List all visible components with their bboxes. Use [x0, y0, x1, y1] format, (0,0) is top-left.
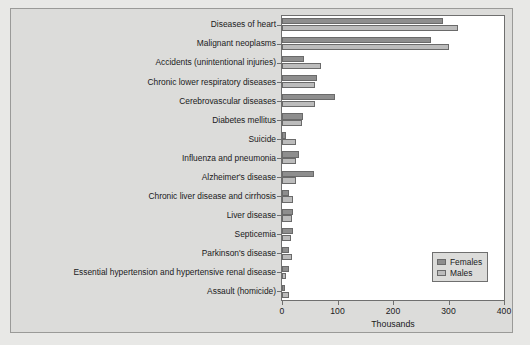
bar-group: [282, 15, 504, 34]
x-tick-mark: [338, 301, 339, 305]
category-tick-row: Liver disease: [17, 206, 281, 225]
bar-group: [282, 148, 504, 167]
bar-females: [282, 266, 289, 272]
bar-males: [282, 158, 296, 164]
category-tick-row: Parkinson's disease: [17, 244, 281, 263]
x-tick-label: 400: [497, 306, 511, 316]
category-label: Parkinson's disease: [202, 249, 281, 257]
category-label: Septicemia: [235, 230, 281, 238]
bar-males: [282, 44, 449, 50]
category-tick-row: Cerebrovascular diseases: [17, 91, 281, 110]
category-tick-row: Assault (homicide): [17, 282, 281, 301]
bar-females: [282, 171, 314, 177]
legend-label: Females: [450, 257, 482, 267]
category-tick-row: Suicide: [17, 129, 281, 148]
bar-males: [282, 215, 292, 221]
category-label: Cerebrovascular diseases: [179, 97, 281, 105]
bar-females: [282, 247, 289, 253]
bar-males: [282, 101, 315, 107]
category-label: Essential hypertension and hypertensive …: [73, 268, 281, 276]
x-tick-mark: [449, 301, 450, 305]
category-label: Chronic liver disease and cirrhosis: [148, 192, 281, 200]
category-axis: Diseases of heartMalignant neoplasmsAcci…: [17, 15, 281, 301]
bar-females: [282, 285, 285, 291]
bar-females: [282, 75, 317, 81]
bar-females: [282, 113, 303, 119]
category-tick-row: Accidents (unintentional injuries): [17, 53, 281, 72]
bar-males: [282, 196, 293, 202]
category-label: Diabetes mellitus: [212, 116, 281, 124]
bar-females: [282, 190, 289, 196]
legend-item: Females: [437, 256, 482, 267]
bar-group: [282, 206, 504, 225]
bar-females: [282, 94, 335, 100]
bar-females: [282, 151, 299, 157]
x-axis-label: Thousands: [282, 319, 504, 329]
category-tick-row: Chronic lower respiratory diseases: [17, 72, 281, 91]
category-label: Accidents (unintentional injuries): [155, 58, 281, 66]
bar-males: [282, 25, 458, 31]
bar-group: [282, 110, 504, 129]
bar-males: [282, 235, 291, 241]
legend-swatch-icon: [437, 259, 446, 265]
x-tick-mark: [282, 301, 283, 305]
category-tick-row: Influenza and pneumonia: [17, 148, 281, 167]
chart-legend: FemalesMales: [432, 252, 488, 282]
x-tick-mark: [504, 301, 505, 305]
category-tick-row: Essential hypertension and hypertensive …: [17, 263, 281, 282]
category-label: Diseases of heart: [211, 20, 281, 28]
bar-males: [282, 120, 302, 126]
bar-group: [282, 34, 504, 53]
legend-label: Males: [450, 268, 472, 278]
bar-males: [282, 139, 296, 145]
legend-item: Males: [437, 267, 482, 278]
chart-figure: Diseases of heartMalignant neoplasmsAcci…: [10, 8, 513, 333]
x-tick-label: 300: [441, 306, 455, 316]
category-tick-row: Chronic liver disease and cirrhosis: [17, 187, 281, 206]
x-tick-label: 200: [386, 306, 400, 316]
bar-females: [282, 18, 443, 24]
bar-males: [282, 273, 286, 279]
bar-females: [282, 132, 286, 138]
category-label: Alzheimer's disease: [202, 173, 281, 181]
x-tick-mark: [393, 301, 394, 305]
bar-males: [282, 82, 315, 88]
category-label: Assault (homicide): [207, 287, 281, 295]
x-axis: Thousands 0100200300400: [282, 301, 504, 335]
bar-males: [282, 177, 296, 183]
bar-group: [282, 282, 504, 301]
legend-swatch-icon: [437, 270, 446, 276]
bar-females: [282, 37, 431, 43]
bar-males: [282, 254, 292, 260]
bar-females: [282, 209, 293, 215]
category-tick-row: Diseases of heart: [17, 15, 281, 34]
category-label: Malignant neoplasms: [197, 39, 281, 47]
category-tick-row: Alzheimer's disease: [17, 168, 281, 187]
bar-group: [282, 187, 504, 206]
bar-group: [282, 225, 504, 244]
bar-females: [282, 228, 293, 234]
bar-group: [282, 72, 504, 91]
bar-males: [282, 63, 321, 69]
x-tick-label: 100: [330, 306, 344, 316]
bar-males: [282, 292, 289, 298]
bar-females: [282, 56, 304, 62]
category-tick-row: Malignant neoplasms: [17, 34, 281, 53]
bar-group: [282, 91, 504, 110]
bar-group: [282, 168, 504, 187]
bar-group: [282, 129, 504, 148]
category-label: Chronic lower respiratory diseases: [148, 78, 281, 86]
category-label: Influenza and pneumonia: [182, 154, 281, 162]
category-tick-row: Septicemia: [17, 225, 281, 244]
category-tick-row: Diabetes mellitus: [17, 110, 281, 129]
bar-group: [282, 53, 504, 72]
category-label: Liver disease: [227, 211, 281, 219]
x-tick-label: 0: [280, 306, 285, 316]
